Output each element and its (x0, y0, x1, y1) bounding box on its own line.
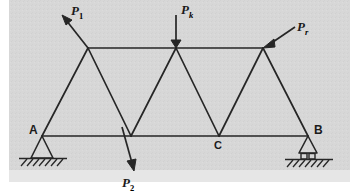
load-label-p2-subscript: 2 (130, 183, 134, 192)
support-label-b: B (314, 123, 323, 137)
joint-label-c: C (214, 139, 222, 151)
load-label-p1-subscript: 1 (79, 11, 83, 21)
truss-figure: P 1 P k P r P 2 A B C (0, 0, 350, 192)
truss-drawing: P 1 P k P r P 2 A B C (0, 0, 350, 192)
scan-area-bottom-fade (9, 170, 350, 182)
support-label-a: A (29, 123, 38, 137)
